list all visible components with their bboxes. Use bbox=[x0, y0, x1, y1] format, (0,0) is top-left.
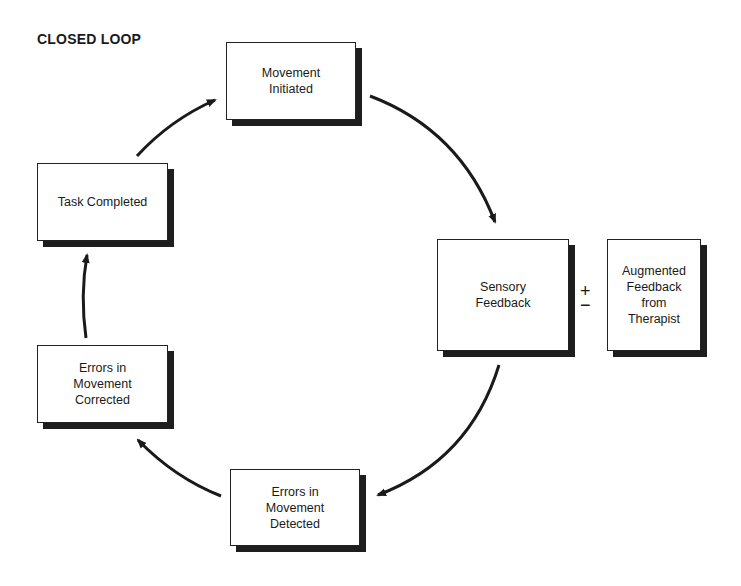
arrow-task-to-movement bbox=[137, 100, 215, 156]
arrow-corrected-to-task bbox=[83, 255, 87, 338]
arrow-movement-to-sensory bbox=[370, 96, 495, 222]
arrow-detected-to-corrected bbox=[138, 440, 221, 496]
arrow-sensory-to-detected bbox=[378, 365, 499, 495]
flow-arrows bbox=[0, 0, 741, 586]
